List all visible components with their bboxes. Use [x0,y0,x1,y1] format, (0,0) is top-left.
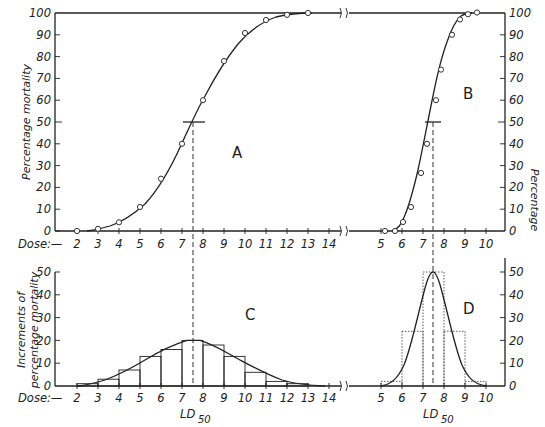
bar-c-8-9 [203,345,224,386]
ld50-label-c: LD 50 [180,407,211,425]
ld50-c-subscript: 50 [198,414,211,425]
xtick-11: 11 [259,237,274,251]
dose-label-top: Dose:— [18,237,63,251]
bxtick-11: 11 [259,391,274,405]
y-axis-title-top: Percentage mortality [20,64,33,180]
brxtick-10: 10 [479,391,494,405]
rytick-50: 50 [509,115,524,129]
bxtick-3: 3 [94,391,101,405]
ytick-60: 60 [36,93,51,107]
bottom-right-y-ticks [500,272,505,363]
top-left-y-ticks [55,35,62,231]
top-right-y-ticks [498,35,505,209]
brxtick-9: 9 [461,391,468,405]
ld50-d-text: LD [423,407,438,421]
bxtick-5: 5 [136,391,143,405]
xtick-14: 14 [322,237,337,251]
bxtick-14: 14 [322,391,337,405]
histogram-d [381,272,486,386]
axis-break-top [340,8,348,236]
ytick-90: 90 [36,28,51,42]
ytick-100: 100 [29,6,51,20]
ytick-10: 10 [36,202,51,216]
axis-break-bottom [340,381,348,391]
top-right-y-labels: 0 10 20 30 40 50 60 70 80 90 100 [509,6,531,238]
dose-label-bottom: Dose:— [18,391,63,405]
rbytick-40: 40 [509,288,524,302]
bxtick-7: 7 [178,391,186,405]
xtick-6: 6 [157,237,164,251]
ld50-label-d: LD 50 [423,407,454,425]
panel-label-a: A [232,144,243,162]
rytick-100: 100 [509,6,531,20]
xtick-3: 3 [94,237,101,251]
rytick-70: 70 [509,71,524,85]
bxtick-6: 6 [157,391,164,405]
brxtick-5: 5 [377,391,384,405]
xtick-9: 9 [220,237,227,251]
rbytick-30: 30 [509,311,524,325]
rytick-10: 10 [509,202,524,216]
rbytick-50: 50 [509,265,524,279]
bottom-right-y-labels: 0 10 20 30 40 50 [509,265,524,393]
rxtick-9: 9 [461,237,468,251]
bottom-left-y-ticks [55,272,60,363]
rxtick-6: 6 [398,237,405,251]
xtick-10: 10 [238,237,253,251]
ytick-0: 0 [44,224,51,238]
rbytick-20: 20 [509,334,524,348]
panel-label-c: C [245,306,255,324]
xtick-7: 7 [178,237,186,251]
ytick-30: 30 [36,159,51,173]
rxtick-5: 5 [377,237,384,251]
brxtick-6: 6 [398,391,405,405]
ld50-d-subscript: 50 [441,414,454,425]
rxtick-7: 7 [419,237,427,251]
xtick-13: 13 [301,237,316,251]
rytick-0: 0 [509,224,516,238]
panel-label-b: B [463,85,473,103]
y-axis-title-right: Percentage [528,169,541,232]
rytick-90: 90 [509,28,524,42]
bxtick-2: 2 [73,391,80,405]
ytick-20: 20 [36,180,51,194]
bottom-panel: 0 10 20 30 40 50 0 10 20 30 40 50 [15,258,524,425]
bxtick-9: 9 [220,391,227,405]
rytick-80: 80 [509,50,524,64]
panel-label-d: D [463,300,475,318]
rytick-30: 30 [509,159,524,173]
rxtick-10: 10 [479,237,494,251]
bxtick-12: 12 [280,391,295,405]
ytick-70: 70 [36,71,51,85]
y-axis-title-bottom-line2: percentage mortality [28,271,41,389]
bar-c-6-7 [161,350,182,387]
ytick-40: 40 [36,137,51,151]
bar-c-3-4 [98,379,119,386]
rbytick-0: 0 [509,379,516,393]
xtick-12: 12 [280,237,295,251]
xtick-5: 5 [136,237,143,251]
rytick-60: 60 [509,93,524,107]
curve-d [381,272,486,386]
rytick-20: 20 [509,180,524,194]
top-x-labels: 2 3 4 5 6 7 8 9 10 11 12 13 14 5 6 7 8 9… [73,237,493,251]
dose-response-figure: 0 10 20 30 40 50 60 70 80 90 100 0 10 [0,0,545,427]
bar-c-10-11 [245,372,266,386]
top-panel: 0 10 20 30 40 50 60 70 80 90 100 0 10 [18,6,541,386]
ld50-c-text: LD [180,407,195,421]
bxtick-8: 8 [199,391,206,405]
ytick-50: 50 [36,115,51,129]
bottom-x-labels: 2 3 4 5 6 7 8 9 10 11 12 13 14 5 6 7 8 9… [73,391,493,405]
xtick-4: 4 [115,237,122,251]
ytick-80: 80 [36,50,51,64]
rytick-40: 40 [509,137,524,151]
bxtick-4: 4 [115,391,122,405]
rbytick-10: 10 [509,356,524,370]
xtick-2: 2 [73,237,80,251]
brxtick-8: 8 [440,391,447,405]
rxtick-8: 8 [440,237,447,251]
bxtick-13: 13 [301,391,316,405]
xtick-8: 8 [199,237,206,251]
bxtick-10: 10 [238,391,253,405]
brxtick-7: 7 [419,391,427,405]
